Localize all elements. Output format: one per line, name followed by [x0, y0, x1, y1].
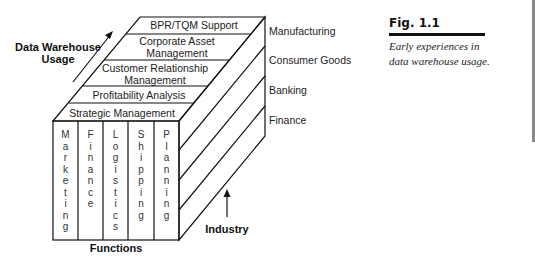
layer-label: Management	[124, 74, 185, 86]
industry-arrow-head-icon	[224, 189, 231, 197]
function-letter: p	[138, 175, 144, 186]
layer-label: Strategic Management	[69, 107, 175, 119]
function-letter: r	[64, 152, 68, 163]
function-letter: i	[64, 198, 66, 209]
industry-label: Banking	[269, 84, 307, 96]
function-letter: c	[88, 187, 93, 198]
function-letter: t	[64, 187, 67, 198]
function-letter: g	[164, 210, 170, 221]
function-letter: i	[140, 152, 142, 163]
function-letter: n	[88, 152, 94, 163]
function-letter: n	[88, 175, 94, 186]
function-letter: n	[164, 175, 170, 186]
function-letter: a	[63, 141, 69, 152]
function-letter: p	[138, 164, 144, 175]
function-letter: F	[87, 129, 93, 140]
layer-label: Corporate Asset	[139, 35, 214, 47]
functions-axis-label: Functions	[90, 242, 143, 254]
layer-label: Management	[146, 47, 207, 59]
function-letter: o	[113, 141, 119, 152]
function-letter: s	[113, 221, 118, 232]
usage-axis-label: Data Warehouse	[15, 41, 101, 53]
layer-label: Profitability Analysis	[93, 89, 186, 101]
function-letter: e	[63, 175, 69, 186]
function-letter: a	[88, 164, 94, 175]
function-letter: g	[113, 152, 119, 163]
function-letter: c	[113, 210, 118, 221]
function-letter: n	[63, 210, 69, 221]
function-letter: M	[61, 129, 69, 140]
function-letter: n	[138, 198, 144, 209]
function-letter: l	[165, 141, 167, 152]
function-letter: a	[164, 152, 170, 163]
function-letter: i	[140, 187, 142, 198]
function-letter: n	[164, 198, 170, 209]
function-letter: n	[164, 164, 170, 175]
figure-number: Fig. 1.1	[389, 16, 440, 30]
industry-axis-label: Industry	[205, 223, 249, 235]
function-letter: t	[114, 187, 117, 198]
function-letter: g	[63, 221, 69, 232]
usage-axis-label: Usage	[41, 53, 74, 65]
layer-label: Customer Relationship	[102, 62, 208, 74]
function-letter: L	[113, 129, 119, 140]
figure-rule	[389, 33, 485, 36]
function-letter: i	[89, 141, 91, 152]
layer-label: BPR/TQM Support	[150, 19, 238, 31]
figure-caption: Early experiences in data warehouse usag…	[389, 39, 499, 69]
function-letter: P	[163, 129, 170, 140]
function-letter: s	[113, 175, 118, 186]
function-letter: i	[114, 198, 116, 209]
industry-label: Finance	[269, 114, 307, 126]
function-letter: h	[138, 141, 144, 152]
function-letter: i	[165, 187, 167, 198]
industry-label: Consumer Goods	[269, 54, 351, 66]
function-letter: g	[138, 210, 144, 221]
industry-label: Manufacturing	[269, 25, 336, 37]
function-letter: e	[88, 198, 94, 209]
function-letter: i	[114, 164, 116, 175]
usage-arrow-head-icon	[105, 31, 113, 39]
function-letter: S	[138, 129, 145, 140]
function-letter: k	[63, 164, 69, 175]
